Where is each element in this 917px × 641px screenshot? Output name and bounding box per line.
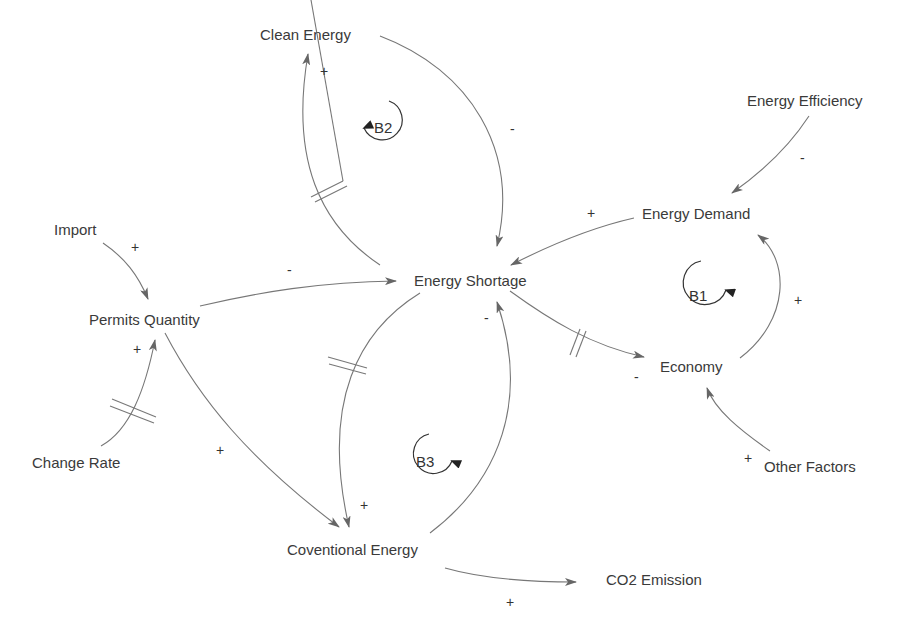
node-clean-energy: Clean Energy xyxy=(260,26,351,43)
node-other-factors: Other Factors xyxy=(764,458,856,475)
loop-label-b2: B2 xyxy=(374,119,392,136)
polarity-sign: + xyxy=(216,443,224,457)
delay-mark xyxy=(311,181,343,197)
node-change-rate: Change Rate xyxy=(32,454,120,471)
delay-mark xyxy=(315,186,347,202)
link-conventional-to-shortage xyxy=(430,302,510,533)
link-change-to-permits xyxy=(101,340,155,446)
loop-label-b1: B1 xyxy=(689,287,707,304)
polarity-sign: + xyxy=(131,240,139,254)
link-shortage-to-economy xyxy=(510,291,644,357)
node-economy: Economy xyxy=(660,358,723,375)
polarity-sign: + xyxy=(133,342,141,356)
link-other-to-economy xyxy=(707,388,770,451)
link-permits-to-conventional xyxy=(165,333,339,527)
node-conventional-energy: Coventional Energy xyxy=(287,541,418,558)
polarity-sign: + xyxy=(360,498,368,512)
polarity-sign: + xyxy=(587,206,595,220)
link-shortage-to-clean xyxy=(303,54,380,265)
loop-label-b3: B3 xyxy=(416,453,434,470)
link-shortage-to-conventional xyxy=(339,293,420,527)
node-permits-quantity: Permits Quantity xyxy=(89,311,200,328)
link-import-to-permits xyxy=(103,243,148,299)
polarity-sign: + xyxy=(320,64,328,78)
link-efficiency-to-demand xyxy=(732,116,809,193)
delay-mark xyxy=(329,364,366,374)
polarity-sign: - xyxy=(510,122,515,136)
causal-loop-diagram: Clean Energy Energy Efficiency Energy De… xyxy=(0,0,917,641)
node-energy-shortage: Energy Shortage xyxy=(414,272,527,289)
link-demand-to-shortage xyxy=(511,218,634,265)
node-energy-efficiency: Energy Efficiency xyxy=(747,92,863,109)
link-permits-to-shortage xyxy=(200,281,396,306)
node-import: Import xyxy=(54,221,97,238)
polarity-sign: - xyxy=(287,263,292,277)
link-conventional-to-co2 xyxy=(445,568,576,582)
delay-mark xyxy=(112,399,156,417)
polarity-sign: - xyxy=(484,311,489,325)
polarity-sign: + xyxy=(506,595,514,609)
link-economy-to-demand xyxy=(740,235,780,358)
delay-mark xyxy=(328,357,367,368)
polarity-sign: - xyxy=(800,151,805,165)
polarity-sign: + xyxy=(744,451,752,465)
link-clean-to-shortage xyxy=(380,36,503,246)
node-co2-emission: CO2 Emission xyxy=(606,571,702,588)
polarity-sign: - xyxy=(634,370,639,384)
polarity-sign: + xyxy=(794,293,802,307)
node-energy-demand: Energy Demand xyxy=(642,205,750,222)
delay-mark xyxy=(110,406,154,423)
